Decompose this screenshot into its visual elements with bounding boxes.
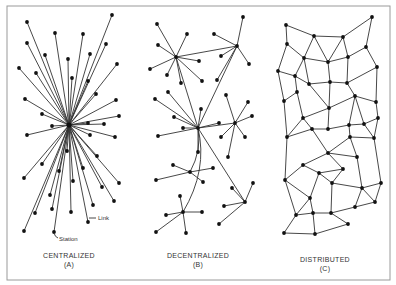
station-node — [104, 42, 108, 46]
station-node — [25, 20, 29, 24]
link-edge — [355, 188, 362, 207]
link-edge — [303, 118, 312, 129]
link-edge — [329, 82, 330, 108]
link-edge — [286, 25, 314, 36]
link-edge — [69, 100, 116, 125]
link-edge — [376, 67, 377, 102]
link-edge — [180, 196, 183, 212]
caption-distributed-letter: (C) — [320, 265, 331, 273]
link-edge — [328, 153, 357, 157]
station-node — [197, 59, 201, 63]
link-edge — [226, 95, 235, 123]
station-node — [88, 52, 92, 56]
station-node — [148, 67, 152, 71]
station-pointer — [54, 233, 58, 238]
link-edge — [285, 180, 296, 215]
link-edge — [158, 45, 176, 57]
station-node — [165, 73, 169, 77]
link-edge — [198, 128, 245, 202]
station-node — [69, 210, 73, 214]
station-node — [43, 53, 47, 57]
station-node — [307, 82, 311, 86]
station-node — [233, 121, 237, 125]
station-node — [355, 155, 359, 159]
link-edge — [357, 157, 362, 188]
link-edge — [295, 58, 304, 76]
station-node — [65, 149, 69, 153]
station-node — [71, 179, 75, 183]
station-node — [285, 135, 289, 139]
link-edge — [278, 71, 295, 76]
station-node — [282, 231, 286, 235]
station-node — [178, 194, 182, 198]
station-node — [172, 115, 176, 119]
link-edge — [156, 212, 183, 232]
station-node — [326, 151, 330, 155]
link-edge — [315, 224, 348, 234]
station-node — [86, 220, 90, 224]
link-edge — [304, 58, 328, 62]
link-edge — [297, 92, 303, 118]
station-node — [102, 122, 106, 126]
station-node — [243, 200, 247, 204]
station-node — [310, 127, 314, 131]
station-node — [348, 135, 352, 139]
link-edge — [54, 125, 69, 232]
link-edge — [328, 137, 350, 153]
station-node — [34, 71, 38, 75]
link-edge — [214, 34, 237, 46]
station-node — [219, 135, 223, 139]
station-node — [86, 121, 90, 125]
station-node — [311, 211, 315, 215]
caption-decentralized: DECENTRALIZED — [167, 252, 229, 259]
station-node — [329, 211, 333, 215]
link-edge — [355, 202, 375, 207]
link-edge — [362, 183, 381, 188]
link-edge — [350, 137, 374, 138]
station-node — [88, 133, 92, 137]
link-edge — [69, 125, 114, 201]
link-edge — [155, 99, 198, 128]
station-node — [285, 42, 289, 46]
station-node — [243, 135, 247, 139]
station-node — [341, 167, 345, 171]
link-edge — [328, 153, 343, 169]
station-node — [201, 180, 205, 184]
link-edge — [285, 165, 303, 180]
link-edge — [69, 125, 93, 205]
station-node — [110, 13, 114, 17]
station-node — [282, 99, 286, 103]
station-node — [40, 162, 44, 166]
station-node — [66, 122, 71, 127]
link-edge — [217, 46, 237, 80]
station-node — [66, 57, 70, 61]
station-node — [25, 133, 29, 137]
link-edge — [310, 173, 319, 198]
distributed-network — [276, 15, 383, 236]
decentralized-network — [148, 15, 255, 235]
link-edge — [343, 37, 348, 57]
station-node — [53, 31, 57, 35]
station-node — [154, 178, 158, 182]
station-node — [330, 181, 334, 185]
station-node — [179, 81, 183, 85]
station-node — [317, 171, 321, 175]
station-node — [376, 116, 380, 120]
link-edge — [69, 81, 88, 125]
station-node — [94, 92, 98, 96]
station-node — [188, 170, 192, 174]
station-node — [112, 199, 116, 203]
link-edge — [374, 138, 381, 183]
link-edge — [176, 34, 187, 57]
link-edge — [347, 57, 348, 83]
station-node — [222, 204, 226, 208]
station-node — [370, 15, 374, 19]
link-edge — [296, 198, 310, 215]
link-edge — [235, 123, 245, 137]
station-node — [100, 185, 104, 189]
station-node — [312, 34, 316, 38]
station-node — [235, 44, 239, 48]
centralized-network — [17, 13, 121, 234]
station-node — [91, 203, 95, 207]
link-edge — [355, 96, 376, 102]
